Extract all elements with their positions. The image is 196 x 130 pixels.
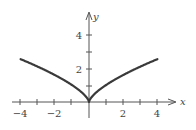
y-tick-label: 2 <box>76 64 82 75</box>
x-axis-label: x <box>180 96 186 107</box>
x-tick-label: 2 <box>120 108 126 119</box>
chart-canvas: −4 −2 2 4 2 4 x y <box>0 0 196 130</box>
x-tick-label: −4 <box>13 108 28 119</box>
x-tick-label: 4 <box>154 108 160 119</box>
x-tick-label: −2 <box>47 108 62 119</box>
y-tick-label: 4 <box>76 30 82 41</box>
y-axis-label: y <box>92 11 99 22</box>
